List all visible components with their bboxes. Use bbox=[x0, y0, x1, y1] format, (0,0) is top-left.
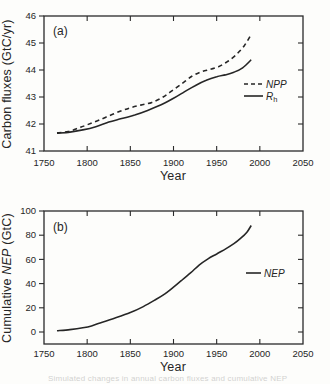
cropped-caption: Simulated changes in annual carbon fluxe… bbox=[48, 374, 304, 383]
y-tick-label: 45 bbox=[25, 37, 36, 48]
chart-panel-a: 1750180018501900195020002050414243444546… bbox=[0, 0, 330, 192]
x-tick-label: 1950 bbox=[206, 348, 227, 359]
y-tick-label: 44 bbox=[25, 64, 36, 75]
curves-b bbox=[57, 226, 251, 331]
x-tick-label: 1850 bbox=[120, 348, 141, 359]
x-tick-label: 2050 bbox=[292, 348, 313, 359]
y-tick-label: 40 bbox=[25, 278, 36, 289]
x-tick-label: 2050 bbox=[292, 157, 313, 168]
y-axis-label-b: Cumulative NEP (GtC) bbox=[0, 213, 14, 343]
x-tick-label: 1800 bbox=[77, 348, 98, 359]
x-tick-label: 1950 bbox=[206, 157, 227, 168]
y-tick-label: 60 bbox=[25, 254, 36, 265]
x-tick-label: 1900 bbox=[163, 157, 184, 168]
x-tick-label: 2000 bbox=[249, 157, 270, 168]
curves-a bbox=[57, 34, 251, 133]
legend-a: NPP Rh bbox=[244, 79, 287, 104]
panel-label-a: (a) bbox=[53, 24, 68, 38]
legend-b: NEP bbox=[246, 268, 285, 279]
x-tick-label: 1850 bbox=[120, 157, 141, 168]
y-tick-label: 46 bbox=[25, 10, 36, 21]
figure-page: 1750180018501900195020002050414243444546… bbox=[0, 0, 330, 384]
series-curve-nep bbox=[57, 226, 251, 331]
panel-label-b: (b) bbox=[53, 220, 68, 234]
x-tick-label: 1750 bbox=[33, 157, 54, 168]
legend-nep-label: NEP bbox=[264, 268, 285, 279]
series-curve-npp bbox=[57, 34, 251, 132]
y-tick-label: 80 bbox=[25, 229, 36, 240]
x-axis-label-a: Year bbox=[160, 169, 186, 183]
legend-npp-label: NPP bbox=[266, 79, 287, 90]
y-tick-label: 43 bbox=[25, 91, 36, 102]
x-tick-label: 1750 bbox=[33, 348, 54, 359]
y-tick-label: 42 bbox=[25, 118, 36, 129]
plot-frame-a bbox=[44, 16, 303, 151]
x-tick-label: 1800 bbox=[77, 157, 98, 168]
x-axis-label-b: Year bbox=[160, 360, 186, 374]
chart-panel-b: 1750180018501900195020002050020406080100… bbox=[0, 192, 330, 384]
x-tick-label: 1900 bbox=[163, 348, 184, 359]
y-tick-label: 20 bbox=[25, 302, 36, 313]
y-tick-label: 41 bbox=[25, 145, 36, 156]
series-curve-rh bbox=[57, 60, 251, 134]
legend-rh-label: Rh bbox=[266, 91, 277, 104]
x-tick-label: 2000 bbox=[249, 348, 270, 359]
y-tick-label: 100 bbox=[20, 205, 36, 216]
y-tick-label: 0 bbox=[31, 326, 36, 337]
y-axis-label-a: Carbon fluxes (GtC/yr) bbox=[0, 19, 14, 148]
